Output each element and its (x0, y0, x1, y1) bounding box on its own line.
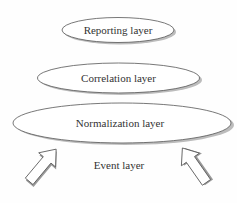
diagram-svg: Reporting layer Correlation layer Normal… (0, 0, 237, 203)
reporting-layer-label: Reporting layer (84, 24, 153, 36)
event-layer-label: Event layer (94, 159, 145, 171)
correlation-layer-label: Correlation layer (81, 72, 156, 84)
reporting-layer-node: Reporting layer (62, 18, 176, 45)
right-event-arrow-icon (173, 141, 218, 190)
correlation-layer-node: Correlation layer (38, 63, 203, 95)
normalization-layer-label: Normalization layer (76, 117, 165, 129)
normalization-layer-node: Normalization layer (13, 103, 234, 145)
left-event-arrow-icon (20, 142, 66, 191)
layer-diagram: Reporting layer Correlation layer Normal… (0, 0, 237, 203)
